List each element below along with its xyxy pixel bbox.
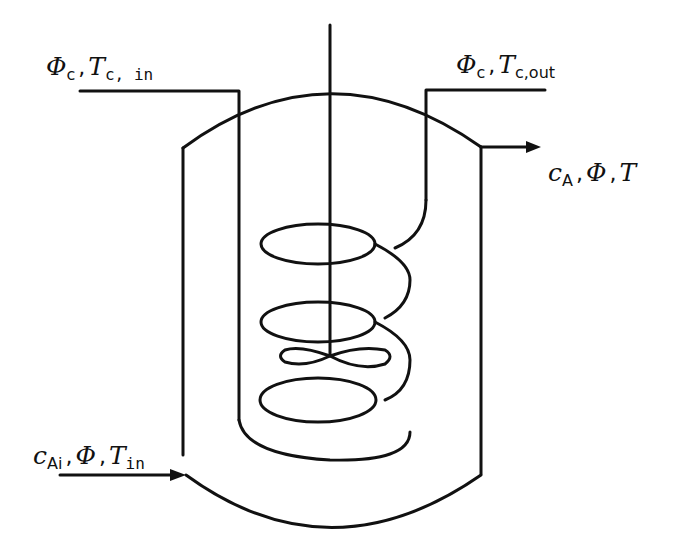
- product-outlet-label: cA,Φ,T: [548, 160, 636, 185]
- product-outlet-arrowhead-icon: [526, 141, 541, 153]
- feed-inlet-label: cAi,Φ,Tin: [33, 443, 145, 468]
- coolant-inlet-pipe: [80, 91, 410, 460]
- vessel-bottom-arc: [186, 475, 481, 528]
- coolant-inlet-label: Φc,Tc, in: [46, 54, 153, 79]
- reactor-diagram: [0, 0, 677, 555]
- coolant-outlet-pipe: [395, 90, 545, 248]
- vessel: [183, 94, 481, 528]
- coolant-outlet-label: Φc,Tc,out: [456, 52, 555, 77]
- vessel-top-arc: [183, 94, 481, 148]
- feed-inlet-arrowhead-icon: [170, 469, 186, 481]
- cooling-coil: [260, 224, 410, 422]
